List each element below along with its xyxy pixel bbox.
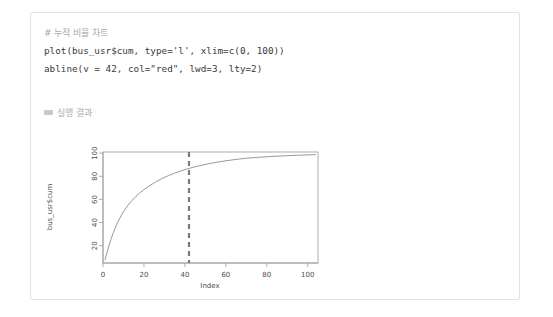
x-tick-label: 100 [301,271,314,279]
x-axis: 020406080100 [101,263,318,279]
y-tick-label: 80 [91,172,99,181]
x-tick-group: 020406080100 [101,263,315,279]
result-caption: 실행 결과 [44,106,92,119]
y-tick-group: 20406080100 [91,146,103,250]
y-tick-label: 40 [91,218,99,227]
y-axis: 20406080100 [91,146,103,263]
y-axis-title: bus_usr$cum [46,184,54,231]
code-result-card: # 누적 비율 차트 plot(bus_usr$cum, type='l', x… [30,12,520,300]
output-block-icon [44,110,53,115]
x-tick-label: 60 [221,271,230,279]
x-tick-label: 0 [101,271,105,279]
cumulative-curve [105,155,316,260]
code-line-abline: abline(v = 42, col="red", lwd=3, lty=2) [44,60,484,78]
x-tick-label: 80 [262,271,271,279]
screenshot-root: # 누적 비율 차트 plot(bus_usr$cum, type='l', x… [0,0,553,317]
code-line-comment: # 누적 비율 차트 [44,24,484,42]
x-tick-label: 40 [180,271,189,279]
y-tick-label: 20 [91,241,99,250]
plot-svg: 20406080100 020406080100 Index bus_usr$c… [36,125,336,293]
code-block[interactable]: # 누적 비율 차트 plot(bus_usr$cum, type='l', x… [44,24,484,78]
y-tick-label: 100 [91,146,99,159]
y-tick-label: 60 [91,195,99,204]
result-caption-label: 실행 결과 [57,106,92,119]
x-tick-label: 20 [139,271,148,279]
x-axis-title: Index [200,282,219,290]
code-line-plot: plot(bus_usr$cum, type='l', xlim=c(0, 10… [44,42,484,60]
plot-panel-box [103,152,318,263]
plot-figure: 20406080100 020406080100 Index bus_usr$c… [36,125,336,293]
